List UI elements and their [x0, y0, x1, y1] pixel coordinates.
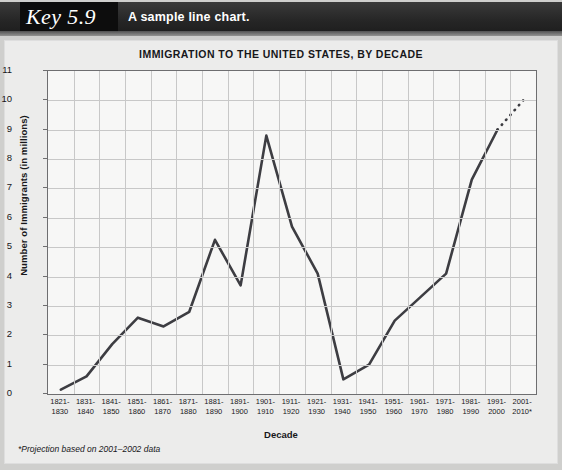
y-tick-label: 6 — [0, 212, 12, 222]
chart-footnote: *Projection based on 2001–2002 data — [18, 444, 160, 454]
gridline-vertical — [382, 71, 383, 394]
gridline-vertical — [74, 71, 75, 394]
gridline-vertical — [125, 71, 126, 394]
y-tick-label: 0 — [0, 388, 12, 398]
y-tick-label: 8 — [0, 153, 12, 163]
gridline-vertical — [151, 71, 152, 394]
gridline-vertical — [331, 71, 332, 394]
gridline-horizontal — [48, 130, 536, 131]
x-axis-title: Decade — [4, 429, 558, 440]
gridline-vertical — [228, 71, 229, 394]
gridline-vertical — [279, 71, 280, 394]
gridline-vertical — [510, 71, 511, 394]
gridline-vertical — [433, 71, 434, 394]
gridline-vertical — [459, 71, 460, 394]
gridline-horizontal — [48, 159, 536, 160]
y-tick-label: 5 — [0, 241, 12, 251]
key-number-label: Key 5.9 — [26, 3, 118, 31]
y-tick-label: 10 — [0, 94, 12, 104]
chart-title: IMMIGRATION TO THE UNITED STATES, BY DEC… — [4, 48, 558, 60]
gridline-horizontal — [48, 188, 536, 189]
gridline-vertical — [408, 71, 409, 394]
gridline-horizontal — [48, 218, 536, 219]
x-tick-label-bottom: 2010* — [505, 407, 539, 417]
y-axis-labels: 01234567891011 — [4, 40, 47, 424]
y-tick-label: 4 — [0, 271, 12, 281]
x-axis-labels: 1821-18301831-18401841-18501851-18601861… — [47, 397, 539, 423]
screenshot-root: Key 5.9 A sample line chart. IMMIGRATION… — [0, 0, 562, 470]
y-tick-label: 11 — [0, 65, 12, 75]
key-header-band: Key 5.9 A sample line chart. — [0, 2, 562, 36]
gridline-horizontal — [48, 100, 536, 101]
gridline-horizontal — [48, 335, 536, 336]
gridline-vertical — [485, 71, 486, 394]
x-tick-label-top: 2001- — [505, 397, 539, 407]
gridline-vertical — [356, 71, 357, 394]
line-series-svg — [48, 71, 536, 394]
gridline-horizontal — [48, 365, 536, 366]
y-tick-label: 2 — [0, 329, 12, 339]
chart-panel: IMMIGRATION TO THE UNITED STATES, BY DEC… — [4, 40, 558, 464]
y-tick-label: 3 — [0, 300, 12, 310]
x-tick-label: 2001-2010* — [505, 397, 539, 416]
gridline-vertical — [253, 71, 254, 394]
gridline-horizontal — [48, 247, 536, 248]
y-tick-label: 9 — [0, 124, 12, 134]
plot-area — [47, 70, 537, 395]
y-tick-label: 7 — [0, 182, 12, 192]
y-tick-label: 1 — [0, 359, 12, 369]
gridline-vertical — [202, 71, 203, 394]
gridline-vertical — [305, 71, 306, 394]
gridline-vertical — [176, 71, 177, 394]
gridline-horizontal — [48, 277, 536, 278]
gridline-horizontal — [48, 306, 536, 307]
key-caption: A sample line chart. — [128, 7, 250, 27]
gridline-vertical — [99, 71, 100, 394]
